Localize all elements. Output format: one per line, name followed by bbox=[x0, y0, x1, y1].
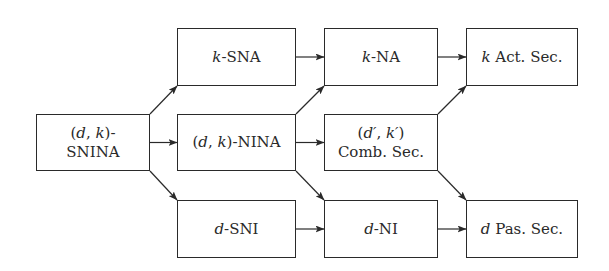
node-snina-line2: SNINA bbox=[66, 143, 119, 162]
node-k-act-sec: k Act. Sec. bbox=[466, 28, 578, 86]
node-snina-line1: (d, k)- bbox=[66, 124, 119, 143]
arrow-comb-to-dpas bbox=[438, 171, 466, 200]
arrow-nina-to-kna bbox=[296, 86, 324, 114]
node-comb-sec-line2: Comb. Sec. bbox=[338, 143, 424, 162]
node-nina: (d, k)-NINA bbox=[177, 114, 296, 171]
node-d-pas-sec: d Pas. Sec. bbox=[466, 200, 578, 258]
node-snina: (d, k)- SNINA bbox=[36, 114, 150, 171]
arrow-nina-to-dni bbox=[296, 171, 324, 200]
node-comb-sec: (d′, k′) Comb. Sec. bbox=[324, 114, 438, 171]
node-d-sni-label: d-SNI bbox=[214, 220, 258, 239]
node-d-ni-label: d-NI bbox=[364, 220, 398, 239]
security-notions-diagram: (d, k)- SNINA k-SNA (d, k)-NINA d-SNI k-… bbox=[0, 0, 609, 271]
node-d-pas-sec-label: d Pas. Sec. bbox=[481, 220, 563, 239]
node-nina-label: (d, k)-NINA bbox=[192, 133, 280, 152]
node-d-sni: d-SNI bbox=[177, 200, 296, 258]
node-k-act-sec-label: k Act. Sec. bbox=[482, 48, 563, 67]
arrow-snina-to-dsni bbox=[150, 171, 177, 200]
node-d-ni: d-NI bbox=[324, 200, 438, 258]
node-k-na-label: k-NA bbox=[362, 48, 400, 67]
arrow-snina-to-ksna bbox=[150, 86, 177, 114]
node-k-sna: k-SNA bbox=[177, 28, 296, 86]
node-k-na: k-NA bbox=[324, 28, 438, 86]
node-comb-sec-line1: (d′, k′) bbox=[338, 124, 424, 143]
arrow-comb-to-kact bbox=[438, 86, 466, 114]
node-k-sna-label: k-SNA bbox=[212, 48, 260, 67]
